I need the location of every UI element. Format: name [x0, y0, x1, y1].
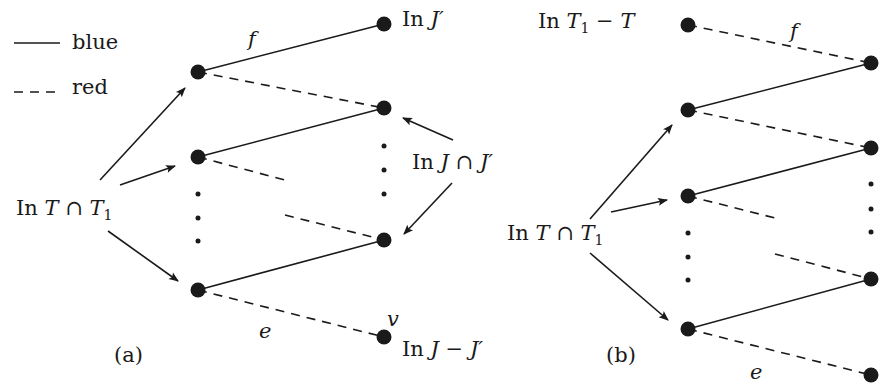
- edge-f-dashed: [688, 25, 871, 63]
- legend-label-blue: blue: [72, 30, 118, 54]
- edge-solid: [198, 240, 384, 290]
- label-edge-f: f: [246, 27, 259, 51]
- arrow-icon: [404, 183, 452, 234]
- edge-dashed: [688, 110, 871, 148]
- legend: blue red: [14, 30, 118, 99]
- label-edge-f: f: [788, 19, 801, 43]
- label-in-j-cap-j-prime: In J ∩ J′: [412, 150, 493, 174]
- vertex: [864, 272, 879, 287]
- edge-solid: [688, 63, 871, 110]
- ellipsis-dot: [869, 230, 874, 235]
- vertex-v: [377, 330, 392, 345]
- edge-dashed-partial: [688, 196, 775, 218]
- edge-e-dashed: [688, 329, 871, 375]
- edge-f-solid: [198, 24, 384, 72]
- ellipsis-dot: [686, 255, 691, 260]
- label-edge-e: e: [259, 319, 271, 343]
- ellipsis-dot: [382, 144, 387, 149]
- legend-label-red: red: [72, 75, 108, 99]
- vertex: [191, 65, 206, 80]
- arrow-icon: [403, 118, 453, 140]
- edge-solid: [688, 279, 871, 329]
- label-in-t1-minus-t: In T1 − T: [538, 9, 636, 36]
- vertex: [377, 101, 392, 116]
- caption-b: (b): [606, 343, 636, 367]
- ellipsis-dot: [686, 278, 691, 283]
- edge-dashed-partial: [775, 254, 871, 279]
- label-edge-e: e: [750, 360, 762, 384]
- edge-e-dashed: [198, 290, 384, 337]
- vertex: [864, 141, 879, 156]
- vertex: [681, 103, 696, 118]
- edge-dashed-partial: [285, 215, 384, 240]
- ellipsis-dot: [382, 192, 387, 197]
- vertex: [864, 368, 879, 383]
- label-source-a: In T ∩ T1: [16, 196, 112, 223]
- panel-a: In T ∩ T1 In J′ In J ∩ J′ In J − J′ f e …: [16, 7, 493, 367]
- ellipsis-dot: [869, 182, 874, 187]
- arrow-icon: [108, 231, 178, 281]
- ellipsis-dot: [869, 207, 874, 212]
- caption-a: (a): [114, 343, 143, 367]
- ellipsis-dot: [196, 239, 201, 244]
- arrow-icon: [611, 200, 667, 212]
- vertex: [681, 18, 696, 33]
- legend-item-dashed: red: [14, 75, 108, 99]
- ellipsis-dot: [686, 231, 691, 236]
- vertex: [377, 233, 392, 248]
- ellipsis-dot: [196, 192, 201, 197]
- edge-dashed-partial: [198, 157, 285, 180]
- label-source-b: In T ∩ T1: [507, 221, 603, 248]
- label-in-j-minus-j-prime: In J − J′: [402, 337, 483, 361]
- vertex: [681, 322, 696, 337]
- panel-b: In T1 − T In T ∩ T1 f e (b): [507, 9, 879, 384]
- ellipsis-dot: [382, 168, 387, 173]
- vertex: [377, 17, 392, 32]
- arrow-icon: [590, 125, 672, 219]
- diagram-canvas: blue red: [0, 0, 889, 389]
- edge-solid: [198, 108, 384, 157]
- arrow-icon: [590, 253, 668, 320]
- edge-solid: [688, 148, 871, 196]
- legend-item-solid: blue: [14, 30, 118, 54]
- ellipsis-dot: [196, 216, 201, 221]
- label-vertex-v: v: [387, 307, 399, 331]
- vertex: [681, 189, 696, 204]
- arrow-icon: [120, 166, 175, 185]
- edge-dashed: [198, 72, 384, 108]
- vertex: [191, 283, 206, 298]
- vertex: [864, 56, 879, 71]
- label-in-j-prime: In J′: [402, 7, 444, 31]
- vertex: [191, 150, 206, 165]
